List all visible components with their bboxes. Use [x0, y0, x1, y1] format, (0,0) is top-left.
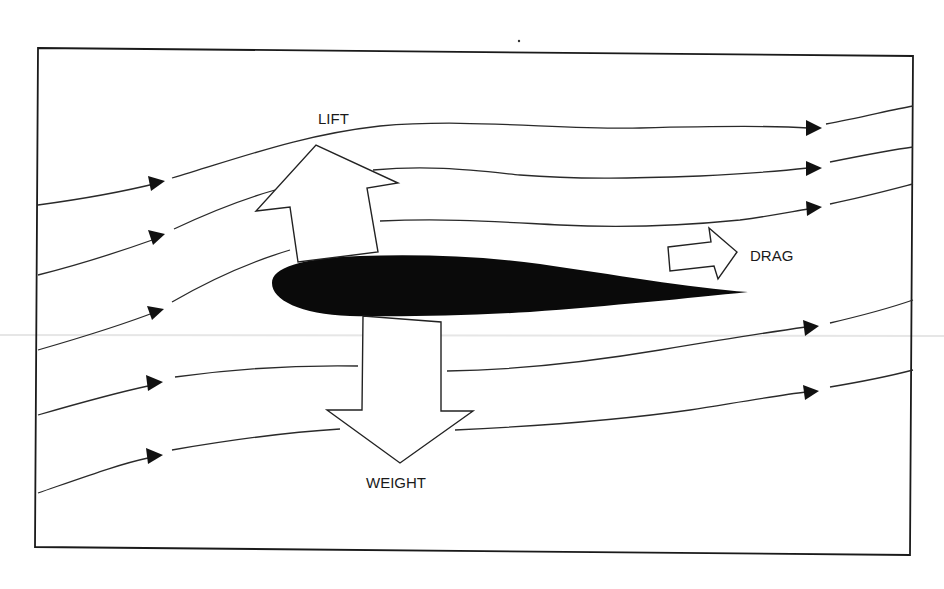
weight-arrow-icon: [327, 316, 473, 463]
streamline-4-arrowhead-left: [146, 375, 163, 391]
streamline-1-arrowhead-right: [806, 120, 822, 136]
streamline-4-arrowhead-right: [803, 320, 819, 336]
streamline-5: [38, 370, 913, 493]
streamline-1-arrowhead-left: [148, 176, 165, 191]
drag-arrow-icon: [668, 228, 737, 279]
streamline-5-arrowhead-right: [803, 385, 819, 400]
weight-label: WEIGHT: [366, 474, 426, 491]
streamline-4: [38, 300, 913, 415]
streamline-2-arrowhead-right: [806, 161, 822, 176]
scan-artifact-line: [0, 335, 944, 336]
airfoil-forces-diagram: LIFT WEIGHT DRAG: [0, 0, 944, 589]
drag-label: DRAG: [750, 247, 793, 264]
scan-speck: [518, 40, 520, 42]
streamline-2-arrowhead-left: [148, 230, 165, 245]
streamline-1: [38, 106, 913, 205]
streamline-3-arrowhead-right: [806, 201, 822, 216]
streamline-5-arrowhead-left: [146, 448, 163, 464]
lift-label: LIFT: [318, 110, 349, 127]
streamline-3-arrowhead-left: [147, 306, 164, 320]
lift-arrow-icon: [256, 145, 398, 262]
